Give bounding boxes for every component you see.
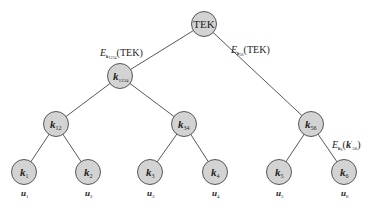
node-k5: k5 bbox=[267, 160, 292, 185]
edge-label-k56-k6: Ek6(k′56) bbox=[331, 139, 361, 152]
edge-label-left: Ek1234(TEK) bbox=[99, 47, 143, 60]
user-label-u1: u1 bbox=[21, 188, 29, 199]
key-tree-diagram: TEK k1234 k12 k34 k56 k1 k2 k3 k4 k5 k6 bbox=[0, 0, 369, 211]
node-k56: k56 bbox=[299, 112, 324, 137]
user-label-u5: u5 bbox=[276, 188, 284, 199]
node-k1234: k1234 bbox=[108, 64, 133, 89]
node-k1: k1 bbox=[12, 160, 37, 185]
edge-label-right: Ek56(TEK) bbox=[230, 44, 270, 57]
node-k6: k6 bbox=[332, 160, 357, 185]
tree-edges bbox=[24, 24, 344, 172]
node-k34: k34 bbox=[172, 112, 197, 137]
user-label-u3: u3 bbox=[147, 188, 155, 199]
node-k3: k3 bbox=[138, 160, 163, 185]
node-k2: k2 bbox=[76, 160, 101, 185]
edge-root-k56 bbox=[204, 24, 311, 124]
node-root: TEK bbox=[192, 12, 217, 37]
user-label-u6: u6 bbox=[341, 188, 349, 199]
node-root-label: TEK bbox=[193, 18, 214, 30]
user-label-u4: u4 bbox=[212, 188, 220, 199]
user-label-u2: u2 bbox=[85, 188, 93, 199]
user-labels: u1 u2 u3 u4 u5 u6 bbox=[21, 188, 349, 199]
node-k12: k12 bbox=[44, 112, 69, 137]
node-k4: k4 bbox=[203, 160, 228, 185]
